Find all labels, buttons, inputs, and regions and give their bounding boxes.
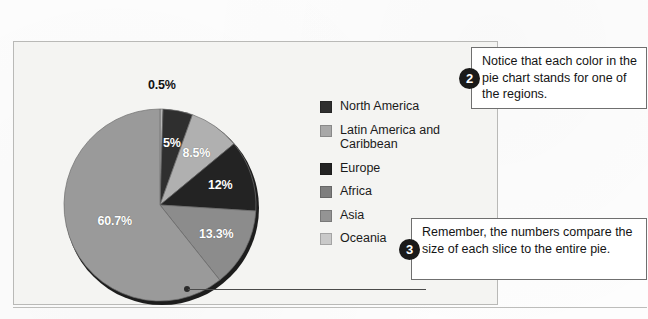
legend-swatch	[320, 210, 332, 222]
slice-data-label: 13.3%	[199, 227, 233, 241]
figure-bottom-rule	[13, 307, 647, 308]
legend-label: North America	[340, 99, 419, 114]
legend-swatch	[320, 163, 332, 175]
slice-data-label: 60.7%	[97, 214, 131, 228]
slice-data-label: 8.5%	[183, 146, 211, 160]
legend-label: Oceania	[340, 231, 387, 246]
slice-data-label: 12%	[208, 178, 232, 192]
callout-2-text: Notice that each color in the pie chart …	[482, 53, 639, 103]
legend-item: Europe	[320, 161, 470, 176]
legend-swatch	[320, 186, 332, 198]
legend-label: Europe	[340, 161, 380, 176]
slice-data-label: 5%	[163, 136, 181, 150]
pie-chart	[62, 107, 262, 307]
legend-item: Africa	[320, 184, 470, 199]
legend-label: Latin America and Caribbean	[340, 123, 462, 152]
legend-swatch	[320, 125, 332, 137]
legend-label: Africa	[340, 184, 372, 199]
legend-item: North America	[320, 99, 470, 114]
legend-item: Latin America and Caribbean	[320, 123, 470, 152]
callout-3-text: Remember, the numbers compare the size o…	[422, 224, 639, 257]
legend-swatch	[320, 101, 332, 113]
callout-2-badge: 2	[459, 68, 480, 89]
callout-box-2: Notice that each color in the pie chart …	[471, 47, 647, 109]
callout-box-3: Remember, the numbers compare the size o…	[411, 218, 647, 280]
callout-3-badge: 3	[399, 239, 420, 260]
pie-slices	[62, 107, 262, 307]
legend-swatch	[320, 233, 332, 245]
legend-label: Asia	[340, 208, 364, 223]
leader-line	[188, 289, 426, 290]
slice-data-label: 0.5%	[148, 78, 176, 92]
